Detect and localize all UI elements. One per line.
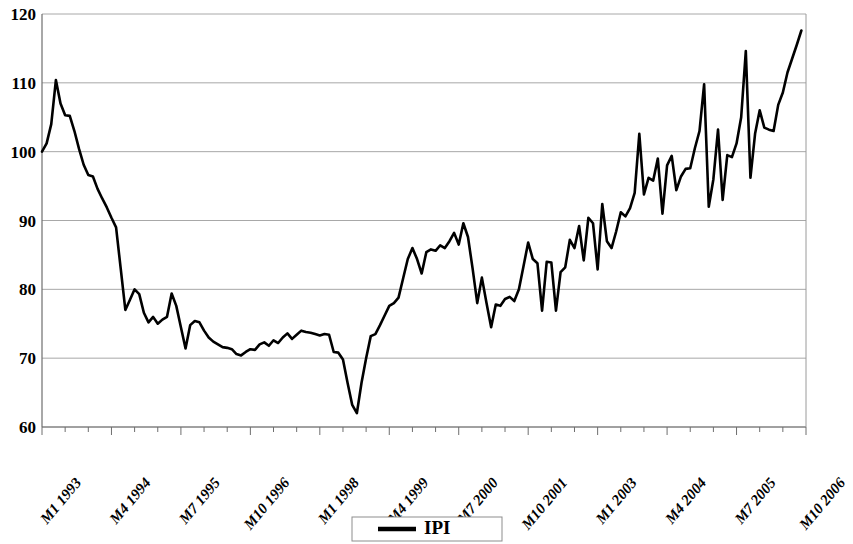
y-tick-label: 90 (19, 212, 36, 231)
legend: IPI (352, 517, 502, 541)
data-series-ipi (42, 31, 801, 414)
x-tick-label: M10 2001 (518, 475, 571, 534)
x-tick-label: M4 1994 (106, 474, 154, 527)
y-tick-label: 60 (19, 418, 36, 437)
x-tick-label: M10 2006 (795, 474, 848, 533)
gridlines (42, 14, 806, 427)
legend-label-ipi: IPI (424, 517, 450, 538)
chart-canvas: 60708090100110120 M1 1993M4 1994M7 1995M… (0, 0, 853, 544)
y-tick-label: 70 (19, 349, 36, 368)
x-tickmarks (42, 427, 806, 435)
ipi-line-chart: 60708090100110120 M1 1993M4 1994M7 1995M… (0, 0, 853, 544)
x-tick-label: M4 2004 (661, 474, 709, 527)
x-tick-label: M10 1996 (240, 474, 293, 533)
y-axis-tick-labels: 60708090100110120 (11, 5, 37, 437)
y-tick-label: 120 (11, 5, 37, 24)
y-tick-label: 100 (11, 143, 37, 162)
x-tick-label: M1 1993 (36, 474, 84, 527)
y-tick-label: 80 (19, 280, 36, 299)
y-tick-label: 110 (11, 74, 36, 93)
x-tick-label: M1 2003 (592, 474, 640, 527)
x-tick-label: M7 2005 (731, 474, 779, 527)
x-tick-label: M7 1995 (175, 474, 223, 527)
